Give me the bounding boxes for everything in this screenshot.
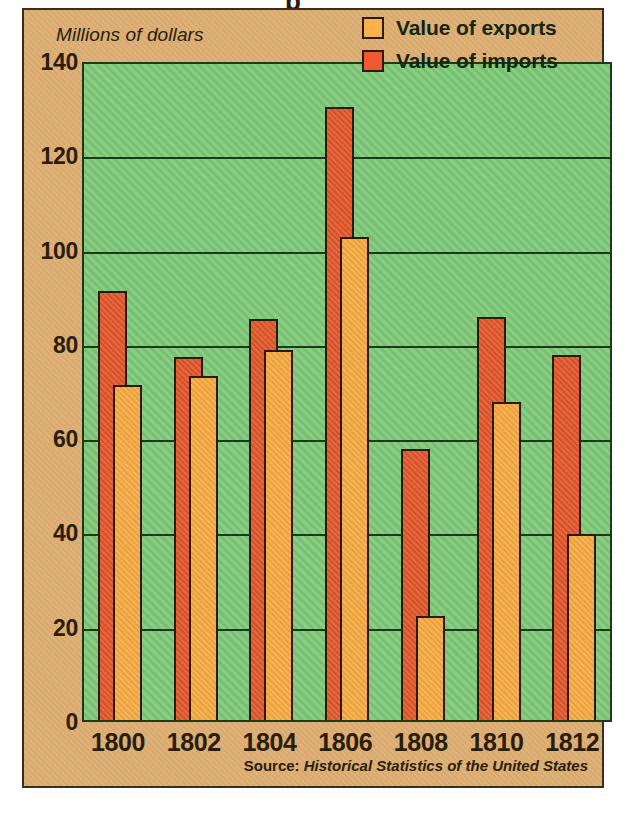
legend-swatch-imports-icon bbox=[362, 50, 384, 72]
y-tick-label-120: 120 bbox=[26, 143, 78, 170]
bar-exports-1812 bbox=[567, 534, 596, 722]
y-tick-label-140: 140 bbox=[26, 49, 78, 76]
chart-legend: Value of exportsValue of imports bbox=[362, 16, 558, 73]
source-title: Historical Statistics of the United Stat… bbox=[304, 757, 588, 774]
y-tick-label-100: 100 bbox=[26, 237, 78, 264]
bar-exports-1806 bbox=[340, 237, 369, 722]
bar-exports-1802 bbox=[189, 376, 218, 722]
y-axis-title: Millions of dollars bbox=[56, 24, 204, 46]
plot-area bbox=[82, 62, 612, 722]
cropped-title-sliver: p bbox=[0, 0, 626, 8]
legend-label-exports: Value of exports bbox=[396, 16, 557, 40]
y-tick-label-40: 40 bbox=[26, 520, 78, 547]
source-note: Source: Historical Statistics of the Uni… bbox=[244, 757, 588, 774]
source-prefix: Source: bbox=[244, 757, 300, 774]
bar-exports-1810 bbox=[492, 402, 521, 722]
bars-layer bbox=[84, 64, 610, 720]
x-tick-label-1808: 1808 bbox=[394, 728, 448, 757]
x-tick-label-1804: 1804 bbox=[242, 728, 296, 757]
legend-item-exports: Value of exports bbox=[362, 16, 558, 40]
bar-exports-1808 bbox=[416, 616, 445, 722]
title-fragment: p bbox=[285, 0, 301, 8]
x-tick-label-1800: 1800 bbox=[91, 728, 145, 757]
x-tick-label-1812: 1812 bbox=[545, 728, 599, 757]
legend-item-imports: Value of imports bbox=[362, 49, 558, 73]
y-tick-label-0: 0 bbox=[26, 709, 78, 736]
legend-swatch-exports-icon bbox=[362, 17, 384, 39]
y-tick-label-20: 20 bbox=[26, 614, 78, 641]
x-tick-label-1802: 1802 bbox=[167, 728, 221, 757]
chart-panel: Millions of dollars 020406080100120140 1… bbox=[22, 8, 604, 788]
bar-exports-1800 bbox=[113, 385, 142, 722]
y-axis-tick-labels: 020406080100120140 bbox=[22, 62, 78, 722]
y-tick-label-80: 80 bbox=[26, 331, 78, 358]
x-tick-label-1806: 1806 bbox=[318, 728, 372, 757]
bar-exports-1804 bbox=[264, 350, 293, 722]
y-tick-label-60: 60 bbox=[26, 426, 78, 453]
legend-label-imports: Value of imports bbox=[396, 49, 558, 73]
x-tick-label-1810: 1810 bbox=[470, 728, 524, 757]
chart-figure: p Millions of dollars 020406080100120140… bbox=[0, 0, 626, 819]
